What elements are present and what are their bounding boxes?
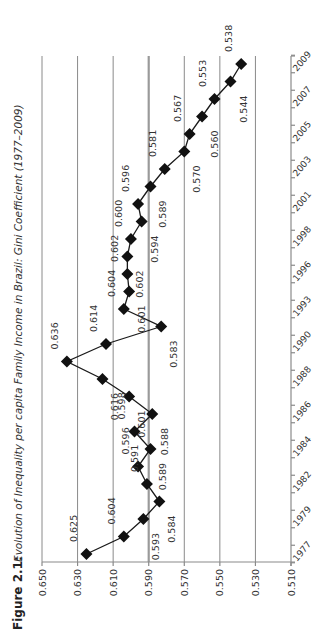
year-axis-labels: 1977197919821984198619881990199319961998… [291, 49, 314, 563]
data-label: 0.602 [109, 235, 120, 262]
data-label: 0.604 [106, 497, 117, 524]
diamond-marker [80, 548, 92, 560]
data-label: 0.596 [120, 165, 131, 192]
year-tick-label: 2007 [291, 84, 313, 108]
value-tick-label: 0.590 [143, 569, 154, 596]
diamond-marker [235, 58, 247, 70]
diamond-marker [100, 338, 112, 350]
data-label: 0.570 [191, 166, 202, 193]
year-tick-label: 1977 [291, 539, 313, 563]
diamond-marker [155, 321, 167, 333]
gini-line-chart: Figure 2.1: Evolution of Inequality per … [0, 0, 331, 638]
diamond-marker [184, 128, 196, 140]
diamond-marker [61, 356, 73, 368]
data-label: 0.625 [68, 515, 79, 542]
year-tick-label: 1990 [291, 329, 314, 353]
year-tick-label: 2005 [291, 119, 313, 143]
data-label: 0.596 [120, 427, 131, 454]
figure-label: Figure 2.1: [11, 556, 25, 630]
year-tick-label: 1984 [291, 434, 314, 458]
diamond-marker [121, 268, 133, 280]
value-tick-label: 0.510 [286, 569, 297, 596]
data-label: 0.544 [238, 96, 249, 123]
year-tick-label: 1988 [291, 364, 314, 388]
diamond-marker [123, 286, 135, 298]
figure-caption-text: Evolution of Inequality per capita Famil… [12, 104, 24, 562]
data-label: 0.584 [166, 516, 177, 543]
diamond-marker [96, 373, 108, 385]
diamond-marker [136, 216, 148, 228]
data-label: 0.600 [113, 200, 124, 227]
value-tick-label: 0.630 [72, 569, 83, 596]
data-label: 0.560 [209, 131, 220, 158]
data-label: 0.616 [109, 393, 120, 420]
year-tick-label: 1982 [291, 469, 313, 493]
data-label: 0.593 [150, 533, 161, 560]
year-tick-label: 2003 [291, 154, 313, 178]
year-tick-label: 2001 [291, 189, 313, 213]
year-tick-label: 1998 [291, 224, 314, 248]
figure-caption: Figure 2.1: Evolution of Inequality per … [11, 104, 25, 630]
data-label: 0.589 [157, 201, 168, 228]
diamond-marker [125, 233, 137, 245]
data-label: 0.601 [136, 306, 147, 333]
data-label: 0.602 [134, 271, 145, 298]
diamond-marker [121, 251, 133, 263]
year-tick-label: 1993 [291, 294, 313, 318]
data-label: 0.581 [147, 130, 158, 157]
year-tick-label: 1996 [291, 259, 314, 283]
diamond-marker [118, 303, 130, 315]
data-label: 0.601 [136, 411, 147, 438]
data-label: 0.567 [172, 95, 183, 122]
value-tick-label: 0.550 [214, 569, 225, 596]
diamond-marker [196, 111, 208, 123]
value-tick-label: 0.570 [179, 569, 190, 596]
value-tick-label: 0.650 [37, 569, 48, 596]
year-tick-label: 1986 [291, 399, 314, 423]
diamond-marker [132, 198, 144, 210]
axes [42, 55, 295, 566]
data-label: 0.553 [197, 60, 208, 87]
data-label: 0.604 [106, 270, 117, 297]
value-tick-label: 0.530 [250, 569, 261, 596]
data-label: 0.538 [223, 25, 234, 52]
diamond-marker [141, 478, 153, 490]
year-tick-label: 1979 [291, 504, 314, 528]
data-label: 0.589 [157, 463, 168, 490]
data-label: 0.636 [49, 322, 60, 349]
data-label: 0.583 [168, 341, 179, 368]
year-tick-label: 2009 [291, 49, 314, 73]
value-tick-label: 0.610 [108, 569, 119, 596]
data-label: 0.594 [149, 236, 160, 263]
data-label: 0.588 [159, 428, 170, 455]
data-label: 0.614 [88, 305, 99, 332]
value-axis-labels: 0.6500.6300.6100.5900.5700.5500.5300.510 [37, 569, 297, 596]
